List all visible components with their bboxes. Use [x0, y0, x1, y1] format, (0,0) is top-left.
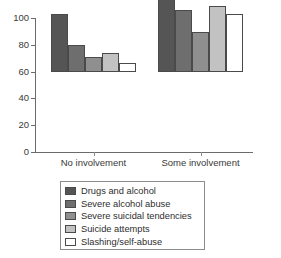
bar	[192, 32, 209, 72]
bars-layer	[0, 0, 281, 178]
legend-item: Severe alcohol abuse	[65, 198, 200, 211]
bar	[68, 45, 85, 72]
bar	[102, 53, 119, 72]
legend-swatch	[65, 212, 76, 220]
legend-item-label: Severe alcohol abuse	[81, 199, 170, 209]
legend-swatch	[65, 238, 76, 246]
legend-item-label: Severe suicidal tendencies	[81, 211, 192, 221]
chart-legend: Drugs and alcoholSevere alcohol abuseSev…	[60, 181, 205, 250]
bar	[209, 6, 226, 72]
bar	[51, 14, 68, 72]
x-axis-label: No involvement	[39, 157, 149, 168]
x-axis-label: Some involvement	[146, 157, 256, 168]
bar	[175, 10, 192, 72]
bar	[158, 0, 175, 72]
legend-item-label: Drugs and alcohol	[81, 186, 156, 196]
legend-item-label: Slashing/self-abuse	[81, 237, 162, 247]
legend-swatch	[65, 225, 76, 233]
legend-item: Drugs and alcohol	[65, 185, 200, 198]
legend-swatch	[65, 200, 76, 208]
bar-chart-figure: 020406080100 No involvementSome involvem…	[0, 0, 281, 258]
legend-item: Severe suicidal tendencies	[65, 210, 200, 223]
legend-item: Slashing/self-abuse	[65, 235, 200, 248]
legend-swatch	[65, 187, 76, 195]
bar	[119, 63, 136, 72]
bar	[85, 57, 102, 72]
plot-area: 020406080100 No involvementSome involvem…	[0, 0, 281, 178]
legend-item-label: Suicide attempts	[81, 224, 150, 234]
legend-item: Suicide attempts	[65, 223, 200, 236]
bar	[226, 14, 243, 72]
